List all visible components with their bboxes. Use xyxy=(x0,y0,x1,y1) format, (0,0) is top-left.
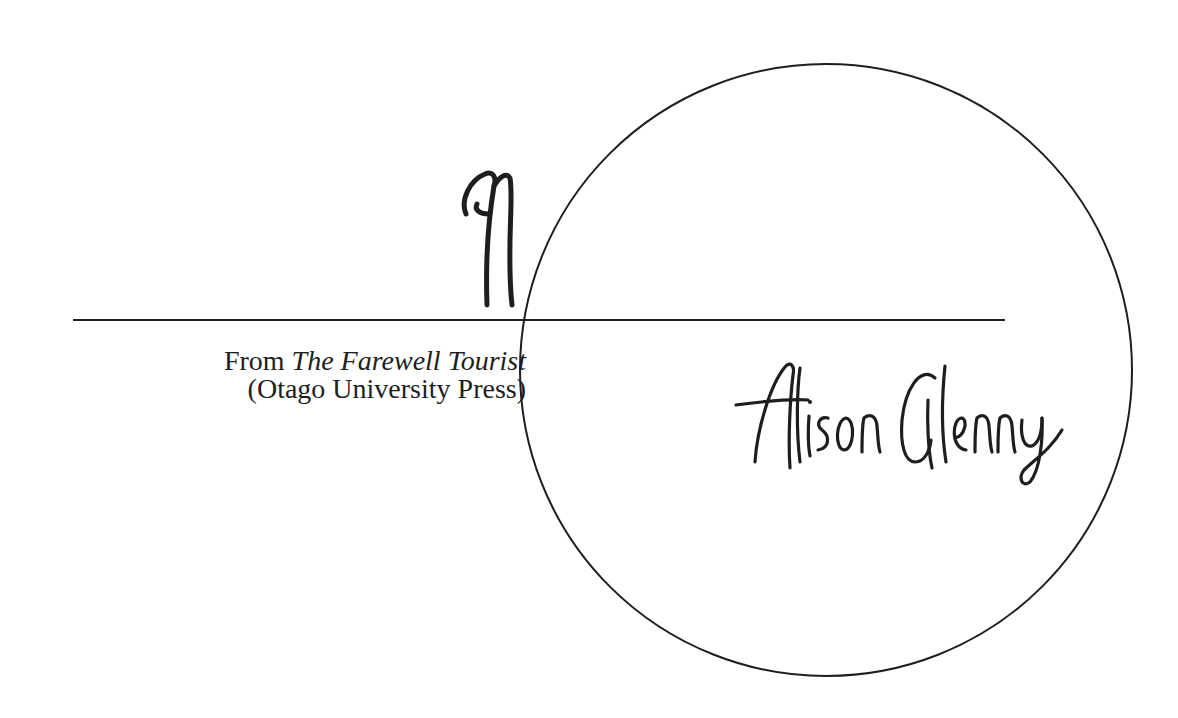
page: From The Farewell Tourist (Otago Univers… xyxy=(0,0,1178,718)
circle-outline xyxy=(520,64,1132,676)
monogram-icon xyxy=(464,173,512,305)
signature-logo xyxy=(736,364,1062,484)
credit-prefix: From xyxy=(224,345,292,376)
credit-line-title: From The Farewell Tourist xyxy=(224,347,526,375)
book-credit: From The Farewell Tourist (Otago Univers… xyxy=(224,347,526,403)
publisher: (Otago University Press) xyxy=(224,375,526,403)
book-title: The Farewell Tourist xyxy=(292,345,526,376)
artwork xyxy=(0,0,1178,718)
